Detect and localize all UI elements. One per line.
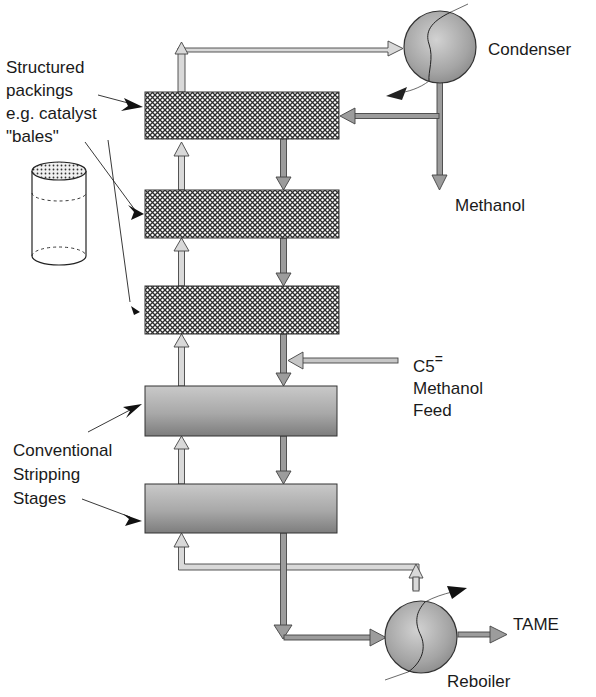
bottoms-line — [281, 533, 287, 628]
liquid-arrow-bed1-bed2 — [276, 138, 291, 190]
feed-arrow — [288, 352, 398, 369]
label-line: packings — [6, 79, 97, 102]
vapor-arrow-bed1-bed2 — [174, 142, 189, 190]
label-line: Stripping — [13, 463, 112, 487]
feed-label: C5= Methanol Feed — [413, 356, 483, 422]
liquid-arrow-bed2-bed3 — [276, 238, 291, 286]
reboiler-vapor-line — [179, 546, 420, 590]
reflux-line — [354, 114, 439, 119]
catalyst-bed-1 — [145, 92, 339, 139]
catalyst-bed-2 — [145, 190, 339, 238]
methanol-output-label: Methanol — [455, 196, 525, 216]
label-line: Structured — [6, 56, 97, 79]
reboiler-label: Reboiler — [447, 672, 510, 692]
catalyst-bed-3 — [145, 286, 339, 334]
catalyst-bale-icon — [32, 162, 86, 265]
tame-line — [458, 632, 492, 637]
label-line: Stages — [13, 487, 112, 511]
coolant-arrowhead-icon — [386, 87, 407, 100]
overhead-vapor-line — [178, 41, 403, 92]
label-line: Conventional — [13, 439, 112, 463]
vapor-arrow-bed2-bed3 — [174, 238, 189, 286]
condenser-outlet-line — [437, 80, 443, 176]
pointer-arrowheads — [121, 98, 144, 526]
label-line: Methanol — [413, 378, 483, 400]
steam-arrowhead-icon — [447, 586, 467, 599]
stripping-stage-2 — [145, 484, 337, 533]
condenser — [386, 4, 476, 100]
label-line: e.g. catalyst — [6, 102, 97, 125]
tame-product-label: TAME — [513, 615, 559, 635]
label-line: Feed — [413, 400, 483, 422]
feed-superscript: = — [435, 351, 443, 367]
feed-species-line: C5= — [413, 356, 483, 378]
label-line: "bales" — [6, 125, 97, 148]
vapor-arrow-bed3-stage1 — [174, 334, 189, 386]
condenser-label: Condenser — [488, 40, 571, 60]
structured-packings-label: Structured packings e.g. catalyst "bales… — [6, 56, 97, 148]
liquid-arrow-stage1-stage2 — [276, 436, 291, 484]
stripping-stage-1 — [145, 386, 337, 436]
conventional-stages-label: Conventional Stripping Stages — [13, 439, 112, 511]
reboiler — [385, 586, 467, 680]
vapor-arrow-stage1-stage2 — [174, 436, 189, 484]
feed-species: C5 — [413, 357, 435, 376]
